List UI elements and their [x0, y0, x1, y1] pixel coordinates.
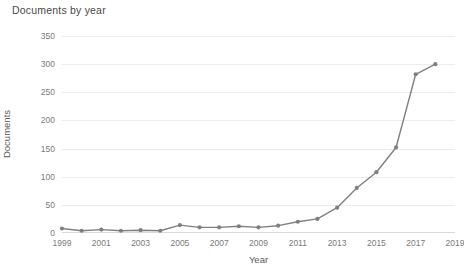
plot-area: 050100150200250300350 199920012003200520… — [62, 36, 455, 233]
x-axis-tick-label: 2003 — [131, 238, 150, 248]
y-axis-tick-label: 350 — [41, 31, 55, 41]
data-point — [315, 217, 319, 221]
data-point — [414, 72, 418, 76]
y-axis-tick-label: 200 — [41, 115, 55, 125]
data-point — [296, 220, 300, 224]
y-axis-tick-label: 250 — [41, 87, 55, 97]
data-point — [256, 225, 260, 229]
data-point — [237, 224, 241, 228]
data-series-documents — [62, 36, 455, 233]
y-axis-tick-label: 100 — [41, 172, 55, 182]
data-point — [60, 226, 64, 230]
data-point — [80, 229, 84, 233]
x-axis-tick-label: 2019 — [446, 238, 464, 248]
chart-title: Documents by year — [12, 4, 106, 16]
data-point — [276, 224, 280, 228]
data-point — [433, 62, 437, 66]
data-point — [374, 170, 378, 174]
y-axis-tick-label: 300 — [41, 59, 55, 69]
data-point — [335, 206, 339, 210]
data-point — [99, 228, 103, 232]
x-axis-tick-label: 2009 — [249, 238, 268, 248]
x-axis-tick-label: 2015 — [367, 238, 386, 248]
series-line — [62, 64, 435, 231]
data-point — [394, 145, 398, 149]
x-axis-tick-label: 1999 — [53, 238, 72, 248]
x-axis-tick-label: 2011 — [289, 238, 307, 248]
y-axis-title: Documents — [1, 110, 12, 158]
y-axis-tick-label: 50 — [46, 200, 55, 210]
data-point — [158, 229, 162, 233]
data-point — [119, 229, 123, 233]
data-point — [178, 223, 182, 227]
data-point — [217, 225, 221, 229]
y-axis-tick-label: 0 — [50, 228, 55, 238]
x-axis-title: Year — [62, 254, 455, 265]
x-axis-tick-label: 2007 — [210, 238, 229, 248]
data-point — [139, 228, 143, 232]
x-axis-tick-label: 2005 — [170, 238, 189, 248]
x-axis-tick-label: 2013 — [328, 238, 347, 248]
x-axis-tick-label: 2017 — [406, 238, 425, 248]
data-point — [355, 186, 359, 190]
data-point — [197, 225, 201, 229]
y-axis-tick-label: 150 — [41, 144, 55, 154]
x-axis-tick-label: 2001 — [92, 238, 111, 248]
